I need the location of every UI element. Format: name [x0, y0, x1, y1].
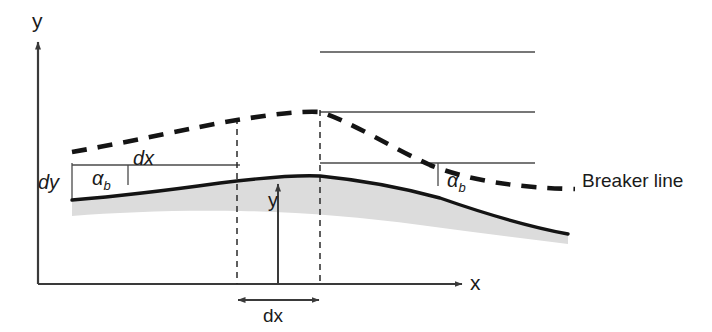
breaker-line-diagram: y x dx dy αb αb y dx Breaker line [0, 0, 712, 332]
alpha-left-symbol: α [92, 167, 103, 189]
y-axis-label: y [32, 10, 43, 31]
y-measure-label: y [268, 190, 278, 210]
dy-label: dy [38, 172, 59, 192]
dx-lower-label: dx [263, 306, 283, 325]
diagram-canvas [0, 0, 712, 332]
dx-upper-label: dx [133, 148, 154, 168]
x-axis-label: x [470, 272, 481, 293]
alpha-b-right-label: αb [447, 170, 466, 194]
alpha-right-symbol: α [447, 169, 458, 191]
alpha-b-left-label: αb [92, 168, 111, 192]
alpha-left-subscript: b [103, 178, 110, 193]
alpha-right-subscript: b [458, 180, 465, 195]
breaker-line-label: Breaker line [582, 171, 683, 190]
